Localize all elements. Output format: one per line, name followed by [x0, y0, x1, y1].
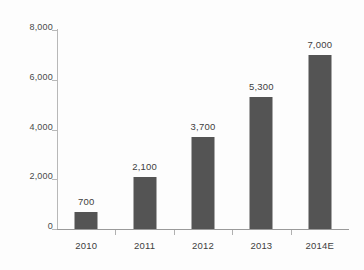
bar-group: 7,000	[291, 30, 349, 229]
bar[interactable]	[133, 177, 156, 229]
x-axis-category-label: 2014E	[306, 240, 334, 251]
bar-value-label: 5,300	[249, 82, 274, 92]
bar[interactable]	[308, 55, 331, 229]
bar-group: 3,700	[174, 30, 232, 229]
x-axis-tick-mark	[174, 230, 175, 235]
x-axis-category-label: 2012	[192, 240, 214, 251]
bar-value-label: 2,100	[132, 162, 157, 172]
y-axis-tick-label: 6,000	[29, 73, 53, 82]
y-axis-tick-label: 2,000	[29, 172, 53, 181]
bar[interactable]	[191, 137, 214, 229]
bar-group: 2,100	[115, 30, 173, 229]
bar-value-label: 700	[78, 197, 94, 207]
x-axis-tick-mark	[291, 230, 292, 235]
x-axis-category-label: 2013	[250, 240, 272, 251]
bar-group: 5,300	[232, 30, 290, 229]
bar-value-label: 3,700	[191, 122, 216, 132]
bar[interactable]	[75, 212, 98, 229]
y-axis-tick-label: 4,000	[29, 123, 53, 132]
bar-group: 700	[57, 30, 115, 229]
y-axis-tick-label: 8,000	[29, 23, 53, 32]
x-axis-category-label: 2011	[134, 240, 155, 251]
bar-value-label: 7,000	[307, 40, 332, 50]
x-axis-labels: 20102011201220132014E	[57, 240, 349, 254]
bars-layer: 7002,1003,7005,3007,000	[57, 30, 349, 229]
x-axis-tick-mark	[115, 230, 116, 235]
x-axis-ticks	[57, 230, 349, 236]
bar[interactable]	[250, 97, 273, 229]
bar-chart: 02,0004,0006,0008,000 7002,1003,7005,300…	[0, 0, 364, 270]
x-axis-tick-mark	[232, 230, 233, 235]
x-axis-category-label: 2010	[75, 240, 97, 251]
